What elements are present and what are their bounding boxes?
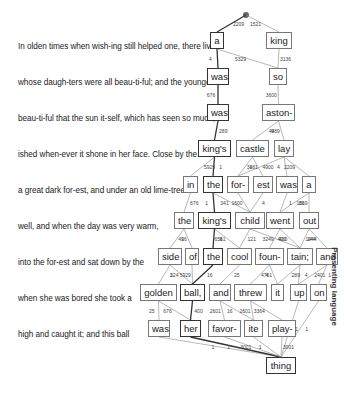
edge — [217, 49, 278, 68]
word-node: so — [269, 68, 287, 85]
edge-weight: 4900 — [262, 164, 273, 170]
word-node: was — [148, 320, 170, 337]
edge — [159, 265, 171, 284]
edge-weight: 16 — [207, 272, 213, 278]
edge-weight: 6561 — [214, 236, 225, 242]
edge-weight: 3364 — [254, 308, 265, 314]
word-node: castle — [236, 140, 269, 157]
edge-weight: 676 — [163, 308, 171, 314]
word-node: the — [203, 176, 223, 193]
word-node: was — [276, 176, 298, 193]
side-caption: Presenting language — [330, 247, 339, 326]
word-node: side — [158, 248, 182, 265]
edge-weight: 4761 — [261, 272, 272, 278]
word-node: tain; — [287, 248, 313, 265]
edge-weight: 341 — [220, 200, 228, 206]
edge-weight: 3001 — [283, 344, 294, 350]
edge-weight: 1 — [289, 200, 292, 206]
word-node: the — [174, 212, 194, 229]
edge-weight: 3001 — [240, 344, 251, 350]
edge-weight: 3136 — [280, 56, 291, 62]
word-node: child — [235, 212, 265, 229]
edge-weight: 4489 — [269, 128, 280, 134]
line-breaking-diagram: In olden times when wish-ing still helpe… — [0, 0, 344, 393]
edge-weight: 2601 — [239, 308, 250, 314]
word-node: a — [210, 32, 224, 49]
word-node: ite — [244, 320, 263, 337]
edge-weight: 2401 — [314, 272, 325, 278]
edge-weight: 3249 — [262, 236, 273, 242]
edge-weight: 1 — [249, 164, 252, 170]
text-line: into the for-est and sat down by the — [18, 258, 144, 267]
edge — [159, 337, 281, 357]
edge-weight: 400 — [194, 308, 202, 314]
text-line: a great dark for-est, and under an old l… — [18, 186, 185, 195]
word-node: thing — [266, 357, 296, 374]
edge-weight: 1 — [295, 326, 298, 332]
edge-weight: 289 — [219, 128, 227, 134]
edge-weight: 5329 — [235, 56, 246, 62]
word-node: on — [310, 284, 327, 301]
edge — [213, 193, 215, 212]
word-node: lay — [274, 140, 294, 157]
word-node: king's — [198, 140, 231, 157]
edge-weight: 1600 — [231, 200, 242, 206]
word-node: est — [253, 176, 273, 193]
word-node: a — [302, 176, 316, 193]
edge-weight: 1 — [205, 200, 208, 206]
edge — [217, 49, 218, 68]
word-node: king — [266, 32, 292, 49]
text-line: beau-ti-ful that the sun it-self, which … — [18, 114, 215, 123]
text-line: whose daugh-ters were all beau-ti-ful; a… — [18, 78, 217, 87]
edge — [278, 85, 279, 104]
edge — [280, 193, 287, 212]
edge-weight: 324 — [170, 272, 178, 278]
edge-weight: 4 — [305, 272, 308, 278]
edge-weight: 676 — [190, 200, 198, 206]
word-node: went — [266, 212, 294, 229]
edge-weight: 5929 — [204, 164, 215, 170]
edge-weight: 289 — [292, 272, 300, 278]
word-node: king's — [198, 212, 231, 229]
edge-weight: 1 — [259, 344, 262, 350]
edge-weight: 2601 — [210, 308, 221, 314]
word-node: aston- — [262, 104, 295, 121]
edge-weight: 4 — [262, 200, 265, 206]
word-node: golden — [140, 284, 177, 301]
edge — [191, 301, 193, 320]
word-node: ball, — [180, 284, 205, 301]
edge-weight: 49 — [178, 236, 184, 242]
edge — [215, 121, 219, 140]
edge-weight: 1 — [227, 344, 230, 350]
word-node: her — [180, 320, 201, 337]
edge-weight: 676 — [207, 92, 215, 98]
word-node: was — [207, 104, 229, 121]
edge-weight: 3600 — [266, 92, 277, 98]
edge-weight: 25 — [149, 308, 155, 314]
edge-weight: 16 — [227, 308, 233, 314]
word-node: of — [185, 248, 199, 265]
text-line: when she was bored she took a — [18, 294, 132, 303]
edge-weight: 1444 — [305, 236, 316, 242]
text-line: well, and when the day was very warm, — [18, 222, 159, 231]
text-line: In olden times when wish-ing still helpe… — [18, 42, 219, 51]
edge — [192, 265, 193, 284]
edge-weight: 2209 — [233, 21, 244, 27]
text-line: ished when-ever it shone in her face. Cl… — [18, 150, 197, 159]
edge-weight: 4 — [209, 56, 212, 62]
word-node: for- — [227, 176, 249, 193]
edge — [250, 193, 263, 212]
word-node: cool — [227, 248, 252, 265]
edge-weight: 25 — [234, 272, 240, 278]
word-node: was — [207, 68, 229, 85]
edge-weight: 5929 — [180, 272, 191, 278]
word-node: favor- — [208, 320, 241, 337]
edge-weight: 121 — [248, 236, 256, 242]
word-node: the — [203, 248, 223, 265]
word-node: it — [271, 284, 284, 301]
word-node: foun- — [255, 248, 284, 265]
edge-weight: 400 — [279, 236, 287, 242]
word-node: out — [299, 212, 319, 229]
edge-weight: 1 — [305, 326, 308, 332]
word-node: up — [290, 284, 307, 301]
